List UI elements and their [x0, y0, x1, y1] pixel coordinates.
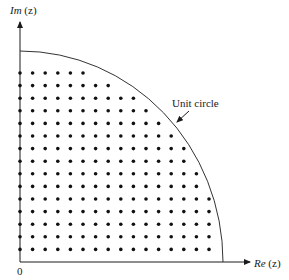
lattice-point	[182, 235, 186, 239]
lattice-point	[31, 84, 35, 88]
lattice-point	[69, 109, 73, 113]
lattice-point	[18, 134, 22, 138]
lattice-point	[169, 235, 173, 239]
lattice-point	[94, 222, 98, 226]
lattice-point	[157, 122, 161, 126]
lattice-point	[106, 84, 110, 88]
lattice-point	[43, 235, 47, 239]
lattice-point	[182, 159, 186, 163]
lattice-point	[144, 248, 148, 252]
lattice-point	[132, 185, 136, 189]
lattice-point	[94, 248, 98, 252]
lattice-point	[106, 159, 110, 163]
imaginary-axis-label: Im (z)	[10, 4, 37, 16]
lattice-point	[132, 172, 136, 176]
lattice-point	[56, 248, 60, 252]
lattice-point	[195, 172, 199, 176]
lattice-point	[94, 159, 98, 163]
lattice-point	[157, 210, 161, 214]
lattice-point	[31, 210, 35, 214]
lattice-point	[144, 134, 148, 138]
lattice-point	[81, 172, 85, 176]
lattice-point	[31, 185, 35, 189]
lattice-point	[56, 96, 60, 100]
lattice-point	[69, 71, 73, 75]
lattice-point	[43, 222, 47, 226]
lattice-point	[56, 222, 60, 226]
lattice-point	[69, 235, 73, 239]
lattice-point	[81, 84, 85, 88]
lattice-point	[69, 159, 73, 163]
lattice-point	[195, 210, 199, 214]
lattice-point	[43, 84, 47, 88]
lattice-point	[106, 96, 110, 100]
lattice-point	[169, 222, 173, 226]
lattice-point	[106, 222, 110, 226]
lattice-point	[106, 172, 110, 176]
lattice-point	[207, 235, 211, 239]
lattice-point	[81, 134, 85, 138]
lattice-point	[132, 109, 136, 113]
unit-circle-label: Unit circle	[172, 97, 219, 109]
lattice-point	[43, 248, 47, 252]
lattice-point	[195, 235, 199, 239]
lattice-point	[31, 172, 35, 176]
lattice-point	[157, 134, 161, 138]
lattice-point	[207, 197, 211, 201]
lattice-point	[18, 71, 22, 75]
lattice-point	[31, 71, 35, 75]
lattice-point	[81, 122, 85, 126]
lattice-point	[31, 147, 35, 151]
lattice-point	[56, 210, 60, 214]
lattice-point	[182, 172, 186, 176]
lattice-point	[119, 235, 123, 239]
lattice-point	[43, 172, 47, 176]
lattice-point	[169, 185, 173, 189]
lattice-point	[94, 134, 98, 138]
lattice-point	[157, 248, 161, 252]
lattice-point	[207, 248, 211, 252]
lattice-point	[94, 122, 98, 126]
lattice-point	[56, 71, 60, 75]
lattice-point	[81, 185, 85, 189]
lattice-point	[144, 185, 148, 189]
lattice-point	[69, 197, 73, 201]
re-arg: (z)	[266, 257, 281, 269]
lattice-point	[144, 122, 148, 126]
lattice-point	[144, 159, 148, 163]
lattice-point	[56, 185, 60, 189]
lattice-point	[43, 147, 47, 151]
lattice-point	[119, 109, 123, 113]
lattice-point	[106, 122, 110, 126]
lattice-point	[31, 134, 35, 138]
origin-label: 0	[17, 265, 23, 277]
lattice-point	[106, 109, 110, 113]
lattice-point	[144, 172, 148, 176]
lattice-point	[157, 197, 161, 201]
lattice-point	[31, 122, 35, 126]
lattice-point	[56, 84, 60, 88]
lattice-point	[69, 210, 73, 214]
lattice-point	[157, 172, 161, 176]
lattice-point	[169, 159, 173, 163]
lattice-point	[119, 197, 123, 201]
lattice-point	[18, 122, 22, 126]
lattice-point	[157, 159, 161, 163]
lattice-point	[132, 235, 136, 239]
lattice-point	[81, 222, 85, 226]
lattice-point	[81, 197, 85, 201]
lattice-point	[81, 235, 85, 239]
lattice-point	[106, 248, 110, 252]
im-prefix: Im	[10, 4, 22, 16]
lattice-point	[182, 210, 186, 214]
lattice-point	[94, 235, 98, 239]
lattice-point	[81, 248, 85, 252]
lattice-point	[119, 134, 123, 138]
lattice-point	[169, 248, 173, 252]
lattice-point	[43, 109, 47, 113]
lattice-point	[207, 222, 211, 226]
lattice-point	[31, 159, 35, 163]
lattice-point	[31, 96, 35, 100]
lattice-point	[94, 109, 98, 113]
lattice-point	[169, 172, 173, 176]
